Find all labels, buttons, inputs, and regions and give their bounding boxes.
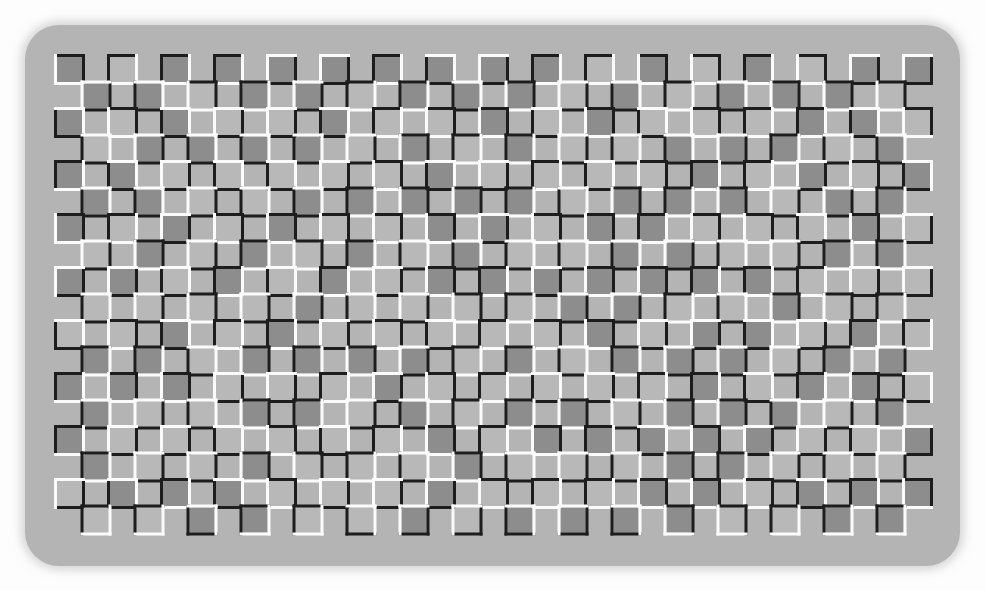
illusion-panel <box>25 25 960 566</box>
illusion-stage: Bulging Squares Optical Illusion An illu… <box>0 0 985 591</box>
